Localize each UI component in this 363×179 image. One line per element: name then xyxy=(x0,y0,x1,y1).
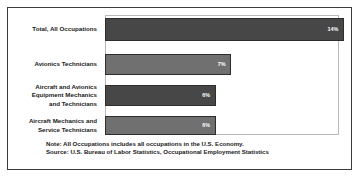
bar-track: 14% xyxy=(103,18,351,41)
category-label-line: and Technicians xyxy=(8,100,97,108)
bar-track: 6% xyxy=(103,116,351,135)
bar-track: 7% xyxy=(103,54,351,75)
category-label-line: Aircraft and Avionics xyxy=(8,83,97,91)
bar-chart: Total, All Occupations 14% Avionics Tech… xyxy=(8,12,351,138)
bar-value-label: 7% xyxy=(218,62,231,67)
category-label: Aircraft Mechanics and Service Technicia… xyxy=(8,117,103,133)
chart-figure: Total, All Occupations 14% Avionics Tech… xyxy=(7,7,352,170)
bar-row: Total, All Occupations 14% xyxy=(8,18,351,41)
category-label: Avionics Technicians xyxy=(8,60,103,68)
category-label-line: Total, All Occupations xyxy=(32,25,97,32)
bar[interactable]: 6% xyxy=(105,85,216,106)
bar-row: Aircraft and Avionics Equipment Mechanic… xyxy=(8,85,351,106)
category-label-line: Equipment Mechanics xyxy=(8,91,97,99)
footnote-note: Note: All Occupations includes all occup… xyxy=(46,140,346,148)
bar-row: Aircraft Mechanics and Service Technicia… xyxy=(8,116,351,135)
bar-row: Avionics Technicians 7% xyxy=(8,54,351,75)
category-label-line: Service Technicians xyxy=(8,126,97,134)
bar-track: 6% xyxy=(103,85,351,106)
bar-value-label: 6% xyxy=(202,93,215,98)
category-label-line: Avionics Technicians xyxy=(34,60,97,67)
chart-footnote: Note: All Occupations includes all occup… xyxy=(46,140,346,157)
category-label-line: Aircraft Mechanics and xyxy=(8,117,97,125)
bar[interactable]: 7% xyxy=(105,54,231,75)
bar[interactable]: 6% xyxy=(105,116,216,135)
bar-value-label: 6% xyxy=(202,123,215,128)
bar-value-label: 14% xyxy=(328,27,344,32)
footnote-source: Source: U.S. Bureau of Labor Statistics,… xyxy=(46,148,346,156)
category-label: Total, All Occupations xyxy=(8,25,103,33)
category-label: Aircraft and Avionics Equipment Mechanic… xyxy=(8,83,103,108)
bar[interactable]: 14% xyxy=(105,18,344,41)
